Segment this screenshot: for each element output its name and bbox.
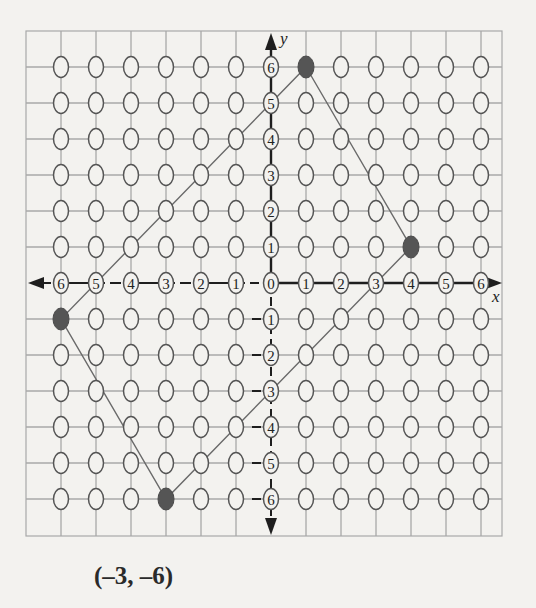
lattice-circle [334, 201, 349, 222]
lattice-circle [334, 345, 349, 366]
lattice-circle [404, 57, 419, 78]
lattice-circle [299, 381, 314, 402]
axis-tick-label: 5 [92, 276, 100, 292]
axis-tick-label: 2 [267, 348, 275, 364]
lattice-circle [159, 309, 174, 330]
axis-tick-label: 6 [267, 60, 275, 76]
lattice-circle [124, 201, 139, 222]
lattice-circle [474, 417, 489, 438]
lattice-circle [369, 201, 384, 222]
axis-tick-label: 4 [407, 276, 415, 292]
lattice-circle [229, 129, 244, 150]
lattice-circle [369, 129, 384, 150]
lattice-circle [89, 201, 104, 222]
lattice-circle [89, 93, 104, 114]
lattice-circle [124, 93, 139, 114]
lattice-circle [194, 417, 209, 438]
axis-tick-label: 2 [197, 276, 205, 292]
lattice-circle [439, 201, 454, 222]
lattice-circle [439, 417, 454, 438]
coordinate-grid-figure: 6543216543210123456123456 x y [0, 0, 536, 608]
lattice-circle [229, 165, 244, 186]
lattice-circle [194, 309, 209, 330]
lattice-circle [369, 93, 384, 114]
lattice-circle [89, 489, 104, 510]
lattice-circle [474, 453, 489, 474]
lattice-circle [334, 165, 349, 186]
lattice-circle [89, 57, 104, 78]
lattice-circle [194, 345, 209, 366]
lattice-circle [159, 381, 174, 402]
lattice-circle [334, 93, 349, 114]
lattice-circle [124, 309, 139, 330]
lattice-circle [299, 309, 314, 330]
lattice-circle [404, 129, 419, 150]
lattice-circle [89, 453, 104, 474]
lattice-circle [54, 345, 69, 366]
axis-tick-label: 3 [162, 276, 170, 292]
lattice-circle [54, 381, 69, 402]
lattice-circle [474, 93, 489, 114]
lattice-circle [54, 57, 69, 78]
lattice-circle [334, 453, 349, 474]
lattice-circle [474, 57, 489, 78]
lattice-circle [404, 201, 419, 222]
lattice-circle [159, 345, 174, 366]
lattice-circle [299, 165, 314, 186]
lattice-circle [299, 237, 314, 258]
lattice-circle [404, 417, 419, 438]
lattice-circle [89, 417, 104, 438]
lattice-circle [194, 489, 209, 510]
lattice-circle [159, 129, 174, 150]
axis-tick-label: 1 [267, 240, 275, 256]
lattice-circle [439, 93, 454, 114]
axis-tick-label: 6 [57, 276, 65, 292]
lattice-circle [229, 381, 244, 402]
lattice-circle [369, 57, 384, 78]
lattice-circle [229, 489, 244, 510]
lattice-circle [439, 489, 454, 510]
lattice-circle [194, 57, 209, 78]
lattice-circle [334, 237, 349, 258]
lattice-circle [54, 129, 69, 150]
lattice-circle [474, 201, 489, 222]
axis-tick-label: 5 [267, 96, 275, 112]
lattice-circle [404, 489, 419, 510]
x-axis-left-arrow-icon [28, 277, 44, 289]
axis-tick-label: 2 [267, 204, 275, 220]
lattice-circle [299, 129, 314, 150]
lattice-circle [334, 57, 349, 78]
axis-tick-label: 6 [267, 492, 275, 508]
lattice-circle [159, 201, 174, 222]
y-axis-label: y [278, 29, 288, 48]
lattice-circle [194, 201, 209, 222]
filled-vertex-point [158, 488, 174, 510]
lattice-circle [54, 165, 69, 186]
lattice-circle [54, 201, 69, 222]
lattice-circle [404, 309, 419, 330]
lattice-circle [124, 129, 139, 150]
lattice-circle [124, 453, 139, 474]
lattice-circle [404, 453, 419, 474]
axis-tick-label: 3 [372, 276, 380, 292]
lattice-circle [229, 57, 244, 78]
lattice-circle [439, 165, 454, 186]
axis-tick-label: 2 [337, 276, 345, 292]
lattice-circle [369, 381, 384, 402]
lattice-circle [369, 237, 384, 258]
lattice-circle [229, 417, 244, 438]
lattice-circle [369, 453, 384, 474]
lattice-circle [89, 129, 104, 150]
lattice-circle [159, 417, 174, 438]
lattice-circle [159, 57, 174, 78]
lattice-circle [229, 309, 244, 330]
lattice-circle [334, 417, 349, 438]
lattice-circle [194, 93, 209, 114]
lattice-circle [474, 165, 489, 186]
lattice-circle [439, 129, 454, 150]
lattice-circle [124, 165, 139, 186]
axis-tick-label: 1 [302, 276, 310, 292]
lattice-circle [54, 489, 69, 510]
lattice-circle [474, 489, 489, 510]
lattice-circle [369, 165, 384, 186]
